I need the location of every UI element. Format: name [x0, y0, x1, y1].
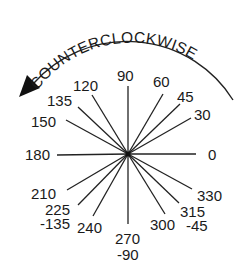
label-neg135: -135	[40, 215, 70, 232]
spoke-330	[128, 154, 192, 189]
label-210: 210	[31, 185, 56, 202]
label-270: 270	[115, 230, 140, 247]
diagram-title: COUNTERCLOCKWISE	[26, 28, 200, 92]
diagram-title-text: COUNTERCLOCKWISE	[26, 28, 200, 92]
label-330: 330	[197, 187, 222, 204]
label-240: 240	[77, 219, 102, 236]
label-neg45: -45	[186, 217, 208, 234]
label-neg90: -90	[117, 246, 139, 263]
label-60: 60	[153, 73, 170, 90]
angle-diagram: COUNTERCLOCKWISE 0 30 45 60	[0, 0, 247, 269]
label-135: 135	[47, 92, 72, 109]
label-180: 180	[25, 146, 50, 163]
label-300: 300	[150, 216, 175, 233]
label-150: 150	[31, 113, 56, 130]
label-120: 120	[73, 77, 98, 94]
center-point	[126, 152, 131, 157]
label-0: 0	[208, 146, 216, 163]
label-45: 45	[177, 88, 194, 105]
label-30: 30	[194, 106, 211, 123]
angle-labels: 0 30 45 60 90 120 135 150 180 210 225 -1…	[25, 67, 222, 263]
spoke-180	[57, 154, 128, 155]
spoke-60	[128, 94, 163, 154]
label-90: 90	[117, 67, 134, 84]
